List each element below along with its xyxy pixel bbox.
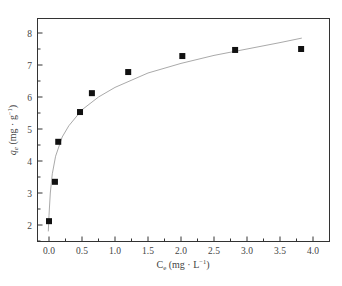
- y-tick-label: 4: [27, 157, 32, 167]
- y-tick-label: 6: [27, 93, 32, 103]
- x-tick-label: 3.5: [274, 246, 286, 256]
- plot-frame: [38, 19, 330, 242]
- y-axis-ticks: 2345678: [27, 29, 42, 242]
- isotherm-chart: 0.00.51.01.52.02.53.03.54.0 2345678 Ce (…: [0, 0, 342, 286]
- x-axis-ticks: 0.00.51.01.52.02.53.03.54.0: [43, 237, 319, 257]
- y-tick-label: 2: [27, 221, 32, 231]
- data-points: [46, 46, 304, 224]
- data-point-marker: [179, 53, 185, 59]
- data-point-marker: [298, 46, 304, 52]
- x-tick-label: 1.5: [142, 246, 154, 256]
- x-tick-label: 2.5: [208, 246, 220, 256]
- x-tick-label: 0.0: [43, 246, 55, 256]
- data-point-marker: [55, 139, 61, 145]
- fitted-curve: [48, 38, 301, 231]
- x-tick-label: 1.0: [109, 246, 121, 256]
- data-point-marker: [125, 69, 131, 75]
- x-axis-label: Ce (mg · L−1): [156, 258, 209, 272]
- data-point-marker: [77, 109, 83, 115]
- data-point-marker: [52, 179, 58, 185]
- y-tick-label: 3: [27, 189, 32, 199]
- y-tick-label: 8: [27, 29, 32, 39]
- x-tick-label: 0.5: [76, 246, 88, 256]
- x-tick-label: 3.0: [241, 246, 253, 256]
- y-tick-label: 5: [27, 125, 32, 135]
- data-point-marker: [89, 90, 95, 96]
- y-axis-label: qe (mg · g−1): [6, 105, 20, 155]
- data-point-marker: [232, 47, 238, 53]
- x-tick-label: 2.0: [175, 246, 187, 256]
- data-point-marker: [46, 218, 52, 224]
- x-tick-label: 4.0: [307, 246, 319, 256]
- y-tick-label: 7: [27, 61, 32, 71]
